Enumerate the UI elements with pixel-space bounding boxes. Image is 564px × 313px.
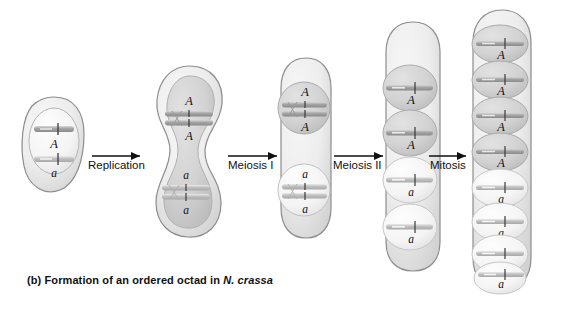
svg-text:a: a: [302, 203, 308, 215]
svg-text:a: a: [498, 278, 504, 290]
stage-ordered-octad: A A A A: [472, 10, 531, 294]
octad-nucleus-3: A: [472, 97, 528, 135]
svg-text:A: A: [406, 138, 415, 152]
nucleus-a: a a: [278, 164, 330, 216]
caption-species-name: N. crassa: [223, 274, 273, 286]
octad-diagram: A a A: [0, 0, 564, 313]
svg-text:A: A: [496, 156, 505, 170]
svg-text:A: A: [496, 120, 505, 134]
svg-text:A: A: [406, 93, 415, 107]
octad-nucleus-4: A: [472, 133, 528, 171]
nucleus-A: A A: [278, 82, 330, 134]
svg-text:a: a: [51, 167, 57, 179]
stage-parent-cell: A a: [22, 97, 84, 192]
arrow-label-meiosis-two: Meiosis II: [333, 160, 382, 172]
nucleus-a-1: a: [383, 157, 437, 203]
octad-nucleus-2: A: [472, 61, 528, 99]
nucleus-a-2: a: [383, 204, 437, 250]
nucleus-A-1: A: [383, 65, 437, 111]
octad-nucleus-5: a: [472, 169, 528, 207]
figure-root: A a A: [0, 0, 564, 313]
svg-text:a: a: [183, 204, 189, 216]
svg-text:a: a: [408, 233, 414, 245]
svg-text:a: a: [183, 169, 189, 181]
svg-text:A: A: [496, 48, 505, 62]
svg-text:A: A: [300, 120, 309, 134]
svg-text:A: A: [300, 85, 309, 99]
arrow-label-replication: Replication: [88, 160, 145, 172]
svg-text:A: A: [184, 94, 193, 108]
octad-nucleus-8: a: [474, 262, 526, 294]
stage-meiosis-one-product: A A a a: [278, 58, 331, 238]
svg-text:A: A: [184, 129, 193, 143]
stage-replicated-cell: A A a a: [156, 66, 222, 237]
svg-text:A: A: [496, 84, 505, 98]
caption-prefix: (b) Formation of an ordered octad in: [27, 274, 223, 286]
arrow-label-meiosis-one: Meiosis I: [228, 160, 273, 172]
figure-caption: (b) Formation of an ordered octad in N. …: [27, 274, 273, 286]
arrow-label-mitosis: Mitosis: [430, 160, 466, 172]
stage-meiosis-two-product: A A a a: [383, 22, 440, 271]
svg-text:a: a: [408, 186, 414, 198]
svg-text:A: A: [49, 137, 58, 151]
nucleus-A-2: A: [383, 110, 437, 156]
svg-text:a: a: [302, 168, 308, 180]
octad-nucleus-1: A: [472, 25, 528, 63]
